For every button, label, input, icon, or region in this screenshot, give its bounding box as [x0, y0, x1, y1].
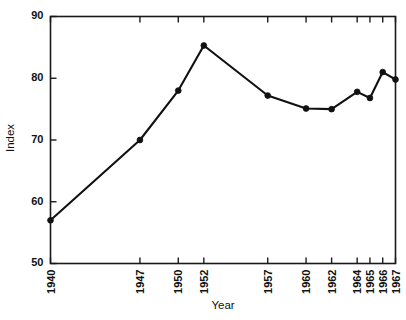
data-point-marker [329, 106, 335, 112]
x-axis-tick-label: 1940 [45, 270, 57, 294]
data-series-line [51, 46, 396, 221]
y-axis-tick-label: 50 [31, 256, 43, 268]
data-point-marker [265, 93, 271, 99]
y-axis-tick-label: 70 [31, 133, 43, 145]
data-point-marker [137, 137, 143, 143]
x-axis-tick-label: 1960 [300, 270, 312, 294]
y-axis-tick-label: 90 [31, 9, 43, 21]
data-point-marker [303, 106, 309, 112]
y-axis-tick-label: 60 [31, 195, 43, 207]
data-point-marker [175, 88, 181, 94]
y-axis-tick-label: 80 [31, 71, 43, 83]
chart-figure: 5060708090194019471950195219571960196219… [0, 0, 406, 320]
x-axis-tick-label: 1962 [326, 270, 338, 294]
line-chart: 5060708090194019471950195219571960196219… [0, 0, 406, 320]
x-axis-tick-label: 1950 [172, 270, 184, 294]
data-point-marker [393, 77, 399, 83]
data-point-marker [380, 69, 386, 75]
x-axis-title: Year [211, 299, 234, 311]
x-axis-tick-label: 1965 [364, 270, 376, 294]
x-axis-tick-label: 1966 [377, 270, 389, 294]
data-point-marker [201, 43, 207, 49]
data-point-marker [367, 95, 373, 101]
x-axis-tick-label: 1964 [351, 269, 363, 294]
data-point-marker [354, 89, 360, 95]
data-point-marker [48, 217, 54, 223]
x-axis-tick-label: 1957 [262, 270, 274, 294]
axes-frame [51, 17, 396, 264]
y-axis-title: Index [4, 124, 16, 152]
x-axis-tick-label: 1967 [390, 270, 402, 294]
x-axis-tick-label: 1952 [198, 270, 210, 294]
x-axis-tick-label: 1947 [134, 270, 146, 294]
